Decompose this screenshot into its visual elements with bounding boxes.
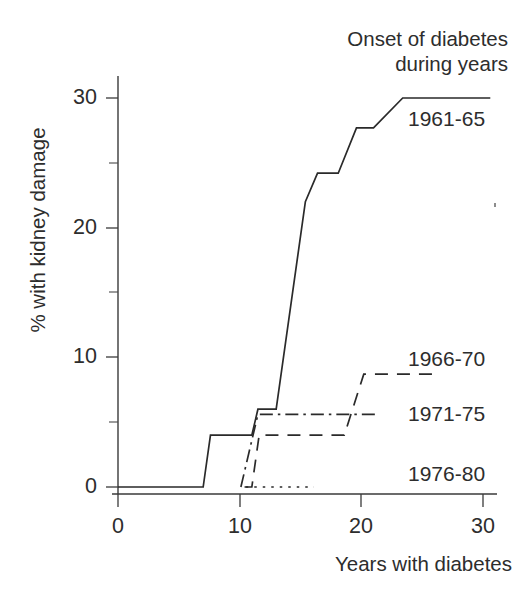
y-tick-label-10: 10 — [45, 344, 97, 369]
legend-title-line-2: during years — [347, 51, 508, 76]
series-line-1961-65 — [118, 98, 490, 487]
y-tick-label-30: 30 — [45, 85, 97, 110]
series-label-1961-65: 1961-65 — [408, 107, 485, 131]
x-tick-label-0: 0 — [94, 514, 142, 539]
y-tick-label-0: 0 — [45, 474, 97, 499]
x-axis-title: Years with diabetes — [0, 552, 512, 576]
series-line-1971-75 — [241, 414, 376, 487]
x-tick-label-10: 10 — [216, 514, 264, 539]
series-label-1976-80: 1976-80 — [408, 462, 485, 486]
legend-title-line-1: Onset of diabetes — [347, 26, 508, 51]
series-label-1966-70: 1966-70 — [408, 347, 485, 371]
series-label-1971-75: 1971-75 — [408, 402, 485, 426]
y-axis-title: % with kidney damage — [26, 110, 50, 350]
x-tick-label-20: 20 — [337, 514, 385, 539]
y-tick-label-20: 20 — [45, 215, 97, 240]
kidney-damage-line-chart: 30 20 10 0 0 10 20 30 % with kidney dama… — [0, 0, 526, 592]
x-tick-label-30: 30 — [459, 514, 507, 539]
scan-speck — [494, 203, 496, 207]
legend-title: Onset of diabetes during years — [347, 26, 508, 76]
